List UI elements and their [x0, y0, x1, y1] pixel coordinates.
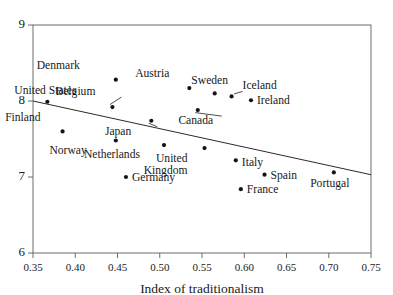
data-label-norway: Norway — [49, 144, 87, 157]
y-tick-label-6: 6 — [19, 244, 26, 259]
data-point-sweden — [213, 91, 217, 95]
data-label-finland: Finland — [5, 111, 41, 124]
plot-canvas: 6789 0.350.400.450.500.550.600.650.700.7… — [0, 0, 393, 295]
data-point-belgium — [110, 105, 114, 109]
data-label-spain: Spain — [271, 169, 298, 182]
data-label-belgium: Belgium — [55, 85, 95, 98]
data-point-united-kingdom — [202, 146, 206, 150]
data-label-netherlands: Netherlands — [84, 148, 141, 161]
x-axis-title: Index of traditionalism — [140, 281, 264, 295]
leader-line-iceland — [234, 91, 243, 94]
data-label-germany: Germany — [132, 171, 175, 184]
data-point-spain — [262, 173, 266, 177]
data-label-iceland: Iceland — [243, 79, 277, 92]
data-point-denmark — [114, 78, 118, 82]
x-axis-tick-labels: 0.350.400.450.500.550.600.650.700.75 — [23, 261, 381, 273]
data-point-canada — [196, 108, 200, 112]
data-label-canada: Canada — [178, 114, 213, 127]
x-tick-label-0.35: 0.35 — [23, 261, 43, 273]
x-tick-label-0.60: 0.60 — [235, 261, 255, 273]
data-point-japan — [149, 119, 153, 123]
x-tick-label-0.65: 0.65 — [277, 261, 297, 273]
data-label-portugal: Portugal — [310, 177, 349, 190]
data-label-sweden: Sweden — [191, 74, 228, 87]
plot-border — [33, 25, 371, 253]
data-label-ireland: Ireland — [257, 94, 290, 107]
plot-frame — [33, 25, 371, 253]
data-label-japan: Japan — [105, 125, 132, 138]
data-point-finland — [60, 129, 64, 133]
data-label-italy: Italy — [242, 156, 263, 169]
data-point-ireland — [249, 98, 253, 102]
y-tick-label-7: 7 — [19, 168, 26, 183]
data-point-labels: DenmarkUnited StatesAustriaSwedenIceland… — [5, 59, 349, 196]
scatter-plot-figure: 6789 0.350.400.450.500.550.600.650.700.7… — [0, 0, 393, 295]
y-axis-tick-labels: 6789 — [19, 16, 26, 259]
data-point-germany — [124, 175, 128, 179]
x-tick-label-0.70: 0.70 — [319, 261, 339, 273]
trend-line — [33, 101, 371, 175]
x-tick-label-0.55: 0.55 — [192, 261, 212, 273]
data-point-iceland — [229, 94, 233, 98]
data-label-denmark: Denmark — [37, 59, 80, 72]
x-tick-label-0.40: 0.40 — [66, 261, 86, 273]
regression-line — [33, 101, 371, 175]
data-point-france — [239, 187, 243, 191]
data-point-united-states — [45, 100, 49, 104]
data-label-france: France — [247, 183, 279, 196]
leader-line-belgium — [110, 97, 122, 105]
x-tick-label-0.45: 0.45 — [108, 261, 128, 273]
y-axis-ticks — [28, 25, 33, 253]
x-tick-label-0.50: 0.50 — [150, 261, 170, 273]
data-point-norway — [114, 138, 118, 142]
data-point-portugal — [332, 170, 336, 174]
x-tick-label-0.75: 0.75 — [361, 261, 381, 273]
data-point-netherlands — [162, 143, 166, 147]
data-point-italy — [234, 158, 238, 162]
y-tick-label-9: 9 — [19, 16, 26, 31]
data-label-austria: Austria — [135, 67, 169, 80]
x-axis-ticks — [33, 253, 371, 258]
label-leader-lines — [110, 91, 243, 126]
x-axis-title-text: Index of traditionalism — [140, 281, 264, 295]
